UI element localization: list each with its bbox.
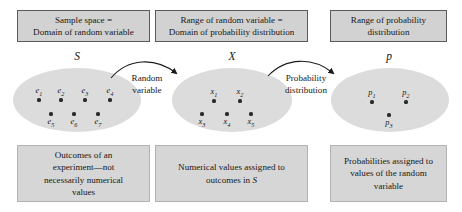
set-letter-s: S <box>66 50 88 62</box>
point-dot-e6 <box>72 112 75 115</box>
point-dot-e7 <box>96 112 99 115</box>
point-label-e7: e7 <box>85 117 111 128</box>
caption-box-outcomes-line4: values <box>44 186 123 198</box>
random-variable-arrow-label-line1: Random <box>112 73 182 85</box>
point-dot-p1 <box>370 100 373 103</box>
caption-box-numerical-values-line1: Numerical values assigned to <box>178 161 285 173</box>
point-dot-p2 <box>404 100 407 103</box>
point-label-p2: p2 <box>393 88 419 99</box>
point-label-e6: e6 <box>61 117 87 128</box>
caption-box-outcomes-line2: experiment—not <box>44 161 123 173</box>
title-box-range-random-variable-line2: Domain of probability distribution <box>169 26 295 38</box>
point-dot-e3 <box>83 98 86 101</box>
probability-distribution-arrow-label-line1: Probability <box>271 73 341 85</box>
caption-box-numerical-values-line2-italic: S <box>252 175 257 185</box>
point-label-x5: x5 <box>238 117 264 128</box>
caption-box-numerical-values: Numerical values assigned to outcomes in… <box>155 145 308 202</box>
point-dot-e4 <box>108 98 111 101</box>
caption-box-probabilities-line3: variable <box>344 180 433 192</box>
point-dot-x4 <box>225 112 228 115</box>
point-label-e2: e2 <box>48 86 74 97</box>
point-label-x2: x2 <box>227 87 253 98</box>
point-dot-e5 <box>49 112 52 115</box>
title-box-sample-space-line1: Sample space = <box>33 14 134 26</box>
caption-box-numerical-values-line2-prefix: outcomes in <box>206 175 252 185</box>
point-label-x3: x3 <box>189 117 215 128</box>
caption-box-probabilities-line1: Probabilities assigned to <box>344 155 433 167</box>
point-label-x4: x4 <box>214 117 240 128</box>
title-box-range-probability: Range of probability distribution <box>330 10 447 42</box>
point-label-p1: p1 <box>359 88 385 99</box>
point-dot-x1 <box>212 99 215 102</box>
title-box-range-random-variable: Range of random variable = Domain of pro… <box>155 10 308 42</box>
caption-box-outcomes-line1: Outcomes of an <box>44 149 123 161</box>
random-variable-arrow-label: Random variable <box>112 73 182 97</box>
point-dot-p3 <box>387 113 390 116</box>
caption-box-probabilities: Probabilities assigned to values of the … <box>330 145 447 202</box>
point-label-e3: e3 <box>72 86 98 97</box>
random-variable-arrow-label-line2: variable <box>112 85 182 97</box>
point-label-x1: x1 <box>201 87 227 98</box>
point-label-p3: p3 <box>376 118 402 129</box>
caption-box-probabilities-line2: values of the random <box>344 167 433 179</box>
title-box-range-random-variable-line1: Range of random variable = <box>169 14 295 26</box>
probability-ellipse: p1 p2 p3 <box>331 68 449 132</box>
caption-box-outcomes: Outcomes of an experiment—not necessaril… <box>17 145 150 202</box>
title-box-range-probability-line1: Range of probability <box>351 14 426 26</box>
point-dot-e1 <box>37 98 40 101</box>
diagram-canvas: Sample space = Domain of random variable… <box>0 0 462 212</box>
caption-box-numerical-values-line2: outcomes in S <box>178 174 285 186</box>
title-box-range-probability-line2: distribution <box>351 26 426 38</box>
caption-box-outcomes-line3: necessarily numerical <box>44 174 123 186</box>
point-dot-e2 <box>59 98 62 101</box>
point-dot-x2 <box>238 99 241 102</box>
point-dot-x5 <box>249 112 252 115</box>
set-letter-p: p <box>378 50 400 62</box>
title-box-sample-space-line2: Domain of random variable <box>33 26 134 38</box>
probability-distribution-arrow-label-line2: distribution <box>271 85 341 97</box>
set-letter-x: X <box>221 50 243 62</box>
probability-distribution-arrow-label: Probability distribution <box>271 73 341 97</box>
point-dot-x3 <box>200 112 203 115</box>
title-box-sample-space: Sample space = Domain of random variable <box>17 10 150 42</box>
